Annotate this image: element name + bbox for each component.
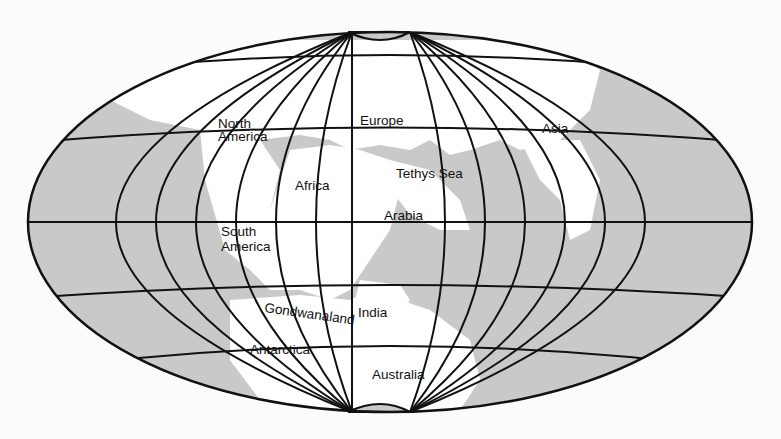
label-africa: Africa <box>295 178 330 193</box>
label-asia: Asia <box>542 121 569 136</box>
label-south-america-2: America <box>221 239 271 254</box>
label-north-america-2: America <box>218 129 268 144</box>
label-india: India <box>358 305 388 320</box>
world-map: North America Europe Asia Africa Tethys … <box>0 0 781 439</box>
label-south-america: South <box>221 224 256 239</box>
label-australia: Australia <box>372 367 425 382</box>
label-antarctica: Antarctica <box>250 342 311 357</box>
label-arabia: Arabia <box>384 208 424 223</box>
label-europe: Europe <box>360 113 404 128</box>
label-tethys-sea: Tethys Sea <box>396 166 463 181</box>
